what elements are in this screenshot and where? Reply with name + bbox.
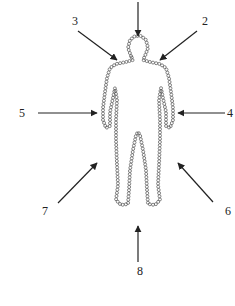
arrow-label-6: 6 [225, 204, 231, 218]
arrow-label-7: 7 [42, 204, 48, 218]
arrow-line [78, 31, 117, 60]
arrow-8: 8 [137, 226, 143, 278]
arrow-label-5: 5 [19, 106, 25, 120]
arrow-6: 6 [178, 163, 231, 218]
arrow-label-8: 8 [137, 264, 143, 278]
arrow-line [58, 163, 97, 203]
arrow-2: 2 [160, 14, 208, 60]
diagram: 2345678 [0, 0, 235, 306]
arrow-5: 5 [19, 106, 97, 120]
arrow-label-3: 3 [72, 14, 78, 28]
arrow-line [160, 31, 197, 60]
arrow-label-4: 4 [227, 106, 233, 120]
human-figure-outline [102, 35, 175, 207]
arrow-7: 7 [42, 163, 97, 218]
arrow-4: 4 [178, 106, 233, 120]
arrows-group: 2345678 [19, 2, 233, 278]
diagram-canvas: 2345678 [0, 0, 235, 306]
arrow-line [178, 163, 213, 202]
arrow-label-2: 2 [202, 14, 208, 28]
arrow-3: 3 [72, 14, 117, 60]
